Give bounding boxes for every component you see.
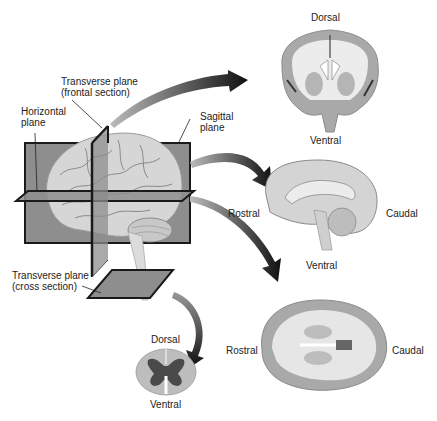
label-sagittal-plane: Sagittal plane bbox=[200, 111, 233, 133]
planes-of-section-diagram: Transverse plane (frontal section) Horiz… bbox=[0, 0, 437, 421]
spinal-dorsal-label: Dorsal bbox=[151, 334, 180, 345]
label-line: Transverse plane bbox=[12, 270, 89, 281]
label-line: Transverse plane bbox=[61, 76, 138, 87]
horizontal-caudal-label: Caudal bbox=[392, 345, 424, 356]
label-horizontal-plane: Horizontal plane bbox=[21, 106, 66, 128]
label-line: (cross section) bbox=[12, 281, 89, 292]
transverse-cross-plane bbox=[88, 270, 173, 298]
label-line: (frontal section) bbox=[61, 87, 138, 98]
spinal-cord-section bbox=[136, 349, 196, 395]
coronal-ventral-label: Ventral bbox=[310, 135, 341, 146]
transverse-frontal-plane bbox=[92, 126, 108, 277]
label-line: Horizontal bbox=[21, 106, 66, 117]
coronal-dorsal-label: Dorsal bbox=[311, 12, 340, 23]
sagittal-ventral-label: Ventral bbox=[306, 260, 337, 271]
midsagittal-section bbox=[266, 160, 377, 250]
horizontal-rostral-label: Rostral bbox=[226, 345, 258, 356]
label-line: plane bbox=[200, 122, 233, 133]
coronal-section bbox=[282, 30, 378, 132]
sagittal-caudal-label: Caudal bbox=[386, 208, 418, 219]
sagittal-rostral-label: Rostral bbox=[228, 208, 260, 219]
label-transverse-plane-cross: Transverse plane (cross section) bbox=[12, 270, 89, 292]
label-transverse-plane-frontal: Transverse plane (frontal section) bbox=[61, 76, 138, 98]
horizontal-section bbox=[262, 300, 387, 390]
spinal-ventral-label: Ventral bbox=[150, 399, 181, 410]
label-line: plane bbox=[21, 117, 66, 128]
arrow-to-sagittal bbox=[190, 153, 272, 190]
label-line: Sagittal bbox=[200, 111, 233, 122]
